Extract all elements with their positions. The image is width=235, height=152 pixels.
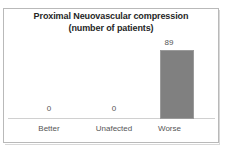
category-label-better: Better bbox=[14, 124, 84, 134]
bar-chart-figure: Proximal Neuovascular compression (numbe… bbox=[0, 0, 235, 152]
category-label-unafected: Unafected bbox=[79, 124, 149, 134]
bar-value-unafected: 0 bbox=[94, 104, 134, 113]
chart-title-line-1: Proximal Neuovascular compression bbox=[34, 11, 189, 21]
frame-edge-bottom bbox=[5, 144, 220, 145]
category-label-worse: Worse bbox=[142, 124, 197, 134]
bar-value-worse: 89 bbox=[152, 38, 186, 47]
frame-edge-right bbox=[219, 10, 220, 145]
chart-title: Proximal Neuovascular compression (numbe… bbox=[8, 10, 214, 34]
chart-title-line-2: (number of patients) bbox=[8, 22, 214, 34]
bar-value-better: 0 bbox=[29, 104, 69, 113]
bar-worse bbox=[160, 50, 194, 119]
